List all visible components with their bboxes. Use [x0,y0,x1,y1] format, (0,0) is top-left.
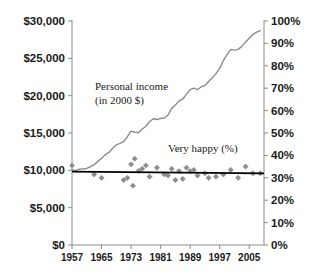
right-axis-tick-label: 10% [271,217,294,229]
bottom-axis-tick-label: 2005 [238,252,261,263]
right-axis-tick-label: 50% [271,127,294,139]
personal-income-label-line1: Personal income [95,80,168,92]
chart-canvas: $0$5,000$10,000$15,000$20,000$25,000$30,… [0,0,323,280]
right-axis-tick-label: 70% [271,82,294,94]
left-axis-tick-label: $10,000 [23,164,65,176]
very-happy-label: Very happy (%) [168,142,238,155]
right-axis-tick-label: 80% [271,60,294,72]
right-axis-tick-label: 90% [271,37,294,49]
chart-container: $0$5,000$10,000$15,000$20,000$25,000$30,… [0,0,323,280]
bottom-axis-tick-label: 1973 [120,252,143,263]
personal-income-label-line2: (in 2000 $) [95,94,144,107]
bottom-axis-tick-label: 1957 [61,252,84,263]
bottom-axis-tick-label: 1997 [209,252,232,263]
left-axis-tick-label: $30,000 [23,15,65,27]
right-axis-tick-label: 20% [271,194,294,206]
left-axis-tick-label: $25,000 [23,52,65,64]
right-axis-tick-label: 0% [271,239,288,251]
right-axis-tick-label: 60% [271,105,294,117]
left-axis-tick-label: $0 [52,239,65,251]
left-axis-tick-label: $15,000 [23,127,65,139]
bottom-axis-tick-label: 1989 [179,252,202,263]
bottom-axis-tick-label: 1965 [90,252,113,263]
bottom-axis-tick-label: 1981 [149,252,172,263]
left-axis-tick-label: $20,000 [23,90,65,102]
left-axis-tick-label: $5,000 [30,202,65,214]
right-axis-tick-label: 100% [271,15,300,27]
right-axis-tick-label: 30% [271,172,294,184]
right-axis-tick-label: 40% [271,149,294,161]
